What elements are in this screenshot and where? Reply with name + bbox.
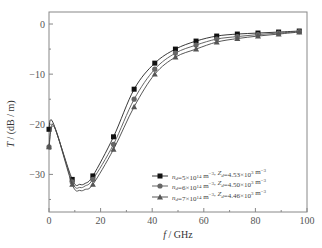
x-tick-label: 60 [199,215,209,226]
circle-marker [152,67,157,72]
square-marker [111,134,116,139]
y-tick-label: 0 [40,19,45,30]
triangle-marker [131,104,137,109]
legend: nd=5×1014 m−3, Zd=4.53×103 m−3nd=6×1014 … [152,168,267,204]
x-axis: 020406080100 [47,208,315,226]
legend-item: nd=7×1014 m−3, Zd=4.46×103 m−3 [152,189,267,204]
y-tick-label: −20 [29,119,45,130]
x-tick-label: 100 [300,215,315,226]
series-circle [46,29,301,188]
square-marker [152,61,157,66]
square-marker [132,87,137,92]
x-tick-label: 40 [147,215,157,226]
circle-marker [132,97,137,102]
x-axis-title: f / GHz [163,229,193,240]
x-tick-label: 0 [47,215,52,226]
line-chart: 020406080100 0−10−20−30 nd=5×1014 m−3, Z… [0,0,322,248]
x-tick-label: 20 [96,215,106,226]
triangle-marker [172,54,178,59]
y-tick-label: −30 [29,169,45,180]
legend-item: nd=6×1014 m−3, Zd=4.50×103 m−3 [152,178,267,193]
x-tick-label: 80 [250,215,260,226]
y-tick-label: −10 [29,69,45,80]
square-marker [158,174,163,179]
y-axis-title: T / (dB / m) [5,100,17,147]
circle-marker [157,183,162,188]
